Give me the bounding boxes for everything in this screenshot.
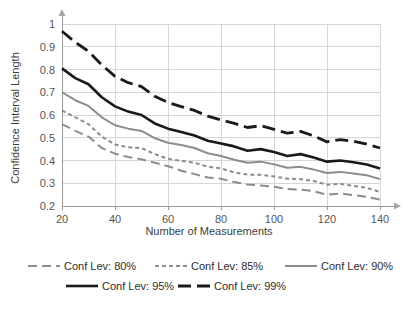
y-tick-label: 0.4 xyxy=(40,155,55,167)
x-tick-label: 60 xyxy=(162,213,174,225)
legend-label: Conf Lev: 80% xyxy=(64,260,136,272)
x-axis-title: Number of Measurements xyxy=(145,225,273,237)
y-tick-label: 0.5 xyxy=(40,132,55,144)
chart-figure: 0.20.30.40.50.60.70.80.91 20406080100120… xyxy=(0,0,405,310)
legend-label: Conf Lev: 99% xyxy=(214,280,286,292)
legend-label: Conf Lev: 85% xyxy=(191,260,263,272)
y-tick-label: 0.6 xyxy=(40,109,55,121)
y-tick-label: 0.9 xyxy=(40,41,55,53)
x-tick-label: 40 xyxy=(109,213,121,225)
y-tick-label: 0.2 xyxy=(40,200,55,212)
x-tick-label: 80 xyxy=(215,213,227,225)
legend-label: Conf Lev: 95% xyxy=(102,280,174,292)
x-tick-label: 120 xyxy=(318,213,336,225)
x-tick-label: 140 xyxy=(371,213,389,225)
y-tick-label: 0.8 xyxy=(40,64,55,76)
y-axis-title: Confidence Interval Length xyxy=(9,52,21,183)
y-axis-tick-labels: 0.20.30.40.50.60.70.80.91 xyxy=(40,18,55,212)
x-tick-label: 100 xyxy=(265,213,283,225)
legend-label: Conf Lev: 90% xyxy=(321,260,393,272)
y-tick-label: 1 xyxy=(49,18,55,30)
x-tick-label: 20 xyxy=(56,213,68,225)
y-tick-label: 0.3 xyxy=(40,177,55,189)
confidence-interval-line-chart: 0.20.30.40.50.60.70.80.91 20406080100120… xyxy=(0,0,405,310)
y-tick-label: 0.7 xyxy=(40,86,55,98)
